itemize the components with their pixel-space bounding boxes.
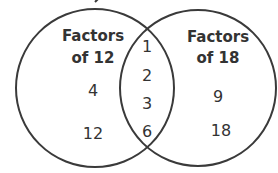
right-set-title-line2: of 18	[197, 49, 240, 67]
intersection-item: 1	[142, 37, 152, 56]
intersection-item: 2	[142, 66, 152, 85]
left-set-title-line2: of 12	[72, 49, 115, 67]
intersection-item: 6	[142, 122, 152, 141]
intersection-item: 3	[142, 94, 152, 113]
venn-diagram: Factors of 12 4 12 1 2 3 6 Factors of 18…	[0, 0, 278, 173]
right-set-title-line1: Factors	[187, 28, 249, 46]
cropped-artifact	[95, 0, 99, 2]
left-only-item: 4	[88, 81, 98, 100]
right-only-item: 9	[213, 87, 223, 106]
right-only-item: 18	[211, 121, 231, 140]
left-set-title-line1: Factors	[62, 27, 124, 45]
left-only-item: 12	[83, 124, 103, 143]
